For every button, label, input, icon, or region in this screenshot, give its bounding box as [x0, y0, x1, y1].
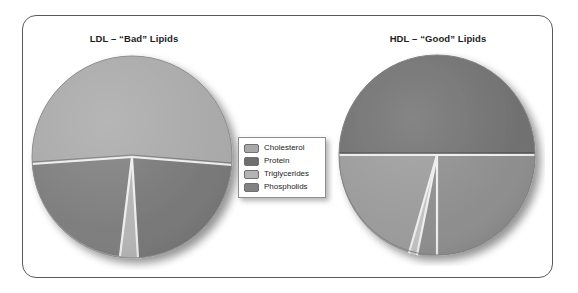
legend-item-cholesterol: Cholesterol	[244, 142, 320, 154]
pie-hdl-body	[339, 55, 535, 256]
legend-swatch-phospholids	[244, 183, 259, 192]
figure-canvas: LDL – “Bad” Lipids	[0, 0, 578, 293]
panel-title-ldl: LDL – “Bad” Lipids	[44, 33, 224, 44]
chart-legend: Cholesterol Protein Triglycerides Phosph…	[238, 137, 326, 198]
legend-item-triglycerides: Triglycerides	[244, 168, 320, 180]
legend-label-triglycerides: Triglycerides	[264, 169, 309, 179]
pie-ldl-shading	[32, 56, 232, 258]
pie-ldl-body	[32, 56, 232, 258]
legend-swatch-protein	[244, 157, 259, 166]
legend-swatch-triglycerides	[244, 170, 259, 179]
legend-label-cholesterol: Cholesterol	[264, 143, 304, 153]
legend-label-phospholids: Phospholids	[264, 182, 308, 192]
panel-title-hdl: HDL – “Good” Lipids	[345, 33, 531, 44]
pie-ldl-svg	[28, 52, 240, 270]
legend-item-phospholids: Phospholids	[244, 181, 320, 193]
pie-chart-ldl	[28, 52, 240, 270]
legend-label-protein: Protein	[264, 156, 289, 166]
pie-hdl-shading	[339, 55, 535, 255]
legend-swatch-cholesterol	[244, 144, 259, 153]
legend-item-protein: Protein	[244, 155, 320, 167]
pie-chart-hdl	[337, 52, 545, 266]
pie-hdl-svg	[337, 52, 545, 266]
